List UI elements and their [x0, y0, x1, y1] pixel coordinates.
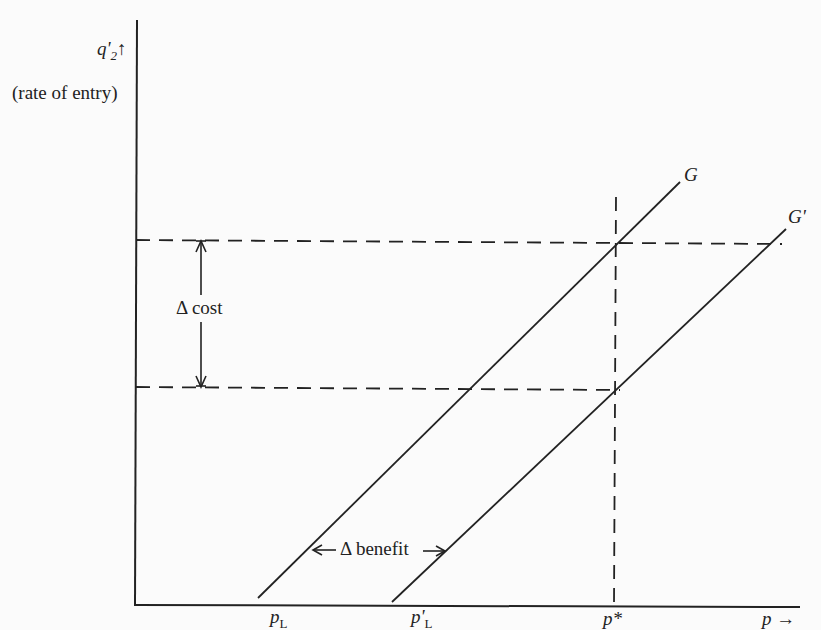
diagram-canvas — [0, 0, 821, 630]
y-axis-description: (rate of entry) — [12, 82, 118, 104]
y-axis-label: q'2↑ — [97, 38, 127, 64]
p-l-prime-label: p'L — [411, 606, 433, 630]
upper-dashed-line — [136, 240, 782, 244]
curve-g-label: G — [684, 164, 698, 186]
delta-benefit-label: Δ benefit — [340, 538, 409, 560]
p-star-label: p* — [603, 608, 622, 630]
curve-g-prime — [392, 229, 786, 602]
p-star-dashed-line — [614, 197, 616, 605]
lower-dashed-line — [136, 387, 620, 390]
x-axis-label: p → — [762, 608, 795, 630]
x-axis — [134, 605, 800, 607]
delta-cost-label: Δ cost — [176, 297, 223, 319]
p-l-label: pL — [270, 606, 287, 630]
curve-g-prime-label: G' — [788, 206, 806, 228]
y-axis — [135, 20, 137, 606]
